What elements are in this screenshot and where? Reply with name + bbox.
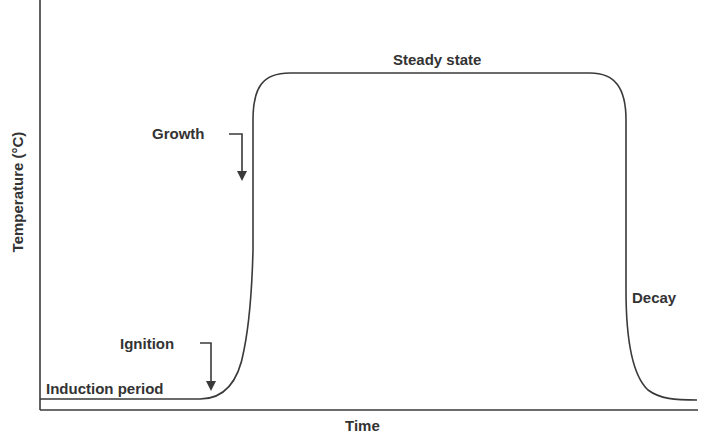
decay-label: Decay: [632, 289, 676, 306]
ignition-arrow-icon: [200, 343, 216, 391]
induction-period-label: Induction period: [46, 380, 164, 397]
diagram-svg: [0, 0, 703, 442]
growth-arrow-icon: [229, 134, 247, 181]
x-axis-label: Time: [345, 417, 380, 434]
steady-state-label: Steady state: [393, 51, 481, 68]
temperature-time-diagram: Temperature (°C) Time Induction period I…: [0, 0, 703, 442]
y-axis-label: Temperature (°C): [9, 132, 26, 253]
growth-label: Growth: [152, 125, 205, 142]
ignition-label: Ignition: [120, 335, 174, 352]
